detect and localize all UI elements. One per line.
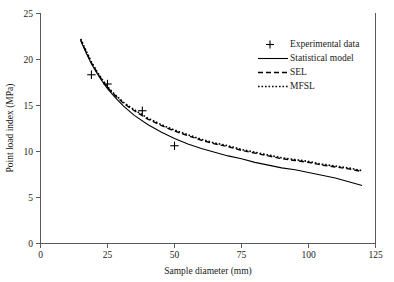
y-tick-label-0: 0	[28, 239, 33, 249]
x-tick-label-125: 125	[368, 250, 383, 260]
x-tick-label-100: 100	[301, 250, 316, 260]
legend-label-sel: SEL	[290, 67, 307, 77]
legend-label-statistical-model: Statistical model	[290, 53, 354, 63]
legend-label-mfsl: MFSL	[290, 81, 315, 91]
y-axis-title: Point load index (MPa)	[5, 84, 16, 173]
point-load-index-chart: 0 5 10 15 20 25 0 25 50 75 100 125 Sampl…	[0, 0, 394, 282]
x-axis-title: Sample diameter (mm)	[164, 266, 252, 277]
y-tick-label-15: 15	[24, 101, 34, 111]
y-tick-label-5: 5	[28, 193, 33, 203]
legend-label-experimental-data: Experimental data	[290, 39, 360, 49]
x-tick-label-0: 0	[38, 250, 43, 260]
x-tick-label-75: 75	[237, 250, 247, 260]
x-tick-label-50: 50	[170, 250, 180, 260]
y-tick-label-20: 20	[24, 55, 34, 65]
y-tick-label-10: 10	[24, 147, 34, 157]
y-tick-label-25: 25	[24, 9, 34, 19]
chart-figure: 0 5 10 15 20 25 0 25 50 75 100 125 Sampl…	[0, 0, 394, 282]
x-tick-label-25: 25	[103, 250, 113, 260]
